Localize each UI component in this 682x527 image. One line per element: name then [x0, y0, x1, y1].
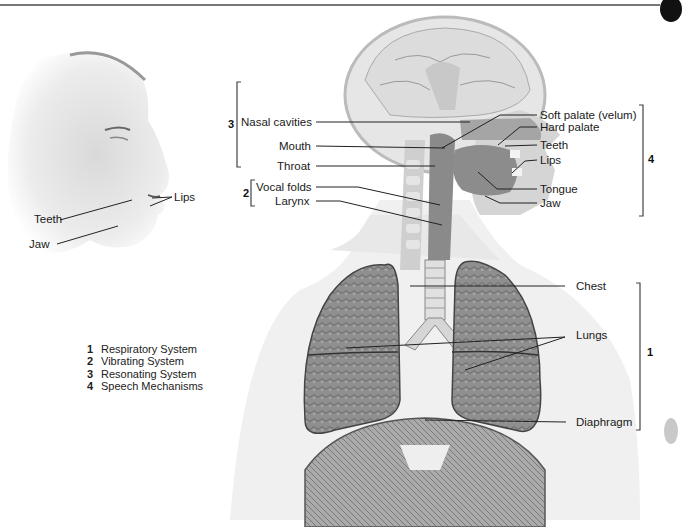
- label-face-jaw: Jaw: [29, 238, 49, 251]
- label-nasal-cavities: Nasal cavities: [241, 116, 312, 129]
- label-larynx: Larynx: [275, 195, 310, 208]
- legend-item: 2Vibrating System: [87, 355, 203, 367]
- legend-item: 3Resonating System: [87, 368, 203, 380]
- label-throat: Throat: [277, 160, 310, 173]
- legend-item: 4Speech Mechanisms: [87, 380, 203, 392]
- label-vocal-folds: Vocal folds: [256, 181, 312, 194]
- face-profile-drawing: [8, 53, 170, 254]
- label-lungs: Lungs: [576, 329, 607, 342]
- label-hard-palate: Hard palate: [540, 121, 599, 134]
- legend-item: 1Respiratory System: [87, 343, 203, 355]
- group-number-1: 1: [647, 346, 653, 358]
- label-teeth: Teeth: [540, 139, 568, 152]
- systems-legend: 1Respiratory System 2Vibrating System 3R…: [87, 343, 203, 392]
- label-tongue: Tongue: [540, 183, 578, 196]
- group-number-2: 2: [243, 187, 249, 199]
- label-face-lips: Lips: [174, 191, 195, 204]
- label-chest: Chest: [576, 280, 606, 293]
- group-number-3: 3: [228, 118, 234, 130]
- label-mouth: Mouth: [279, 140, 311, 153]
- label-lips: Lips: [540, 154, 561, 167]
- label-face-teeth: Teeth: [34, 213, 62, 226]
- label-jaw: Jaw: [540, 197, 560, 210]
- group-number-4: 4: [648, 153, 654, 165]
- label-diaphragm: Diaphragm: [576, 416, 632, 429]
